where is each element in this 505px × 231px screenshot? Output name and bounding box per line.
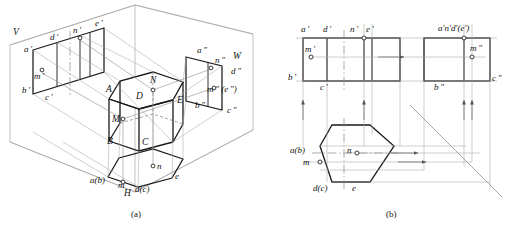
label-n-prime: n ′ — [73, 26, 81, 35]
b-label-n-prime: n ′ — [350, 25, 358, 34]
b-point-m-prime-marker — [309, 55, 313, 59]
b-label-dc-top: d(c) — [313, 184, 328, 193]
label-vertex-N: N — [150, 76, 156, 86]
b-label-b-dprime: b ″ — [434, 83, 444, 92]
descriptive-geometry-figure: V W H a ′ d ′ n ′ e ′ m ′ b ′ c ′ a ″ n … — [0, 0, 505, 231]
label-m-top: m — [118, 181, 125, 190]
caption-b: (b) — [386, 209, 397, 219]
label-vertex-M: M — [112, 115, 120, 125]
point-M-solid-marker — [121, 117, 125, 121]
label-d-dprime: d ″ — [231, 67, 241, 76]
b-point-m-dprime-marker — [470, 55, 474, 59]
b-label-m-top: m — [303, 158, 310, 167]
plane-label-w: W — [233, 52, 241, 62]
point-n-dprime-marker — [209, 66, 213, 70]
b-label-ab-top: a(b) — [290, 146, 305, 155]
label-a-dprime: a ″ — [197, 46, 207, 55]
b-label-a-prime: a ′ — [301, 25, 309, 34]
b-point-n-dprime-marker — [462, 36, 466, 40]
b-label-b-prime: b ′ — [288, 73, 296, 82]
b-label-e-prime: e ′ — [366, 25, 374, 34]
b-label-c-prime: c ′ — [320, 83, 328, 92]
plane-label-v: V — [13, 28, 19, 38]
label-m-prime: m ′ — [34, 72, 44, 81]
caption-a: (a) — [131, 209, 141, 219]
panel-a-projector-lines — [33, 28, 222, 187]
point-n-prime-marker — [78, 36, 82, 40]
b-label-n-top: n — [347, 146, 352, 155]
panel-a-front-projection — [33, 28, 104, 94]
label-vertex-B: B — [107, 137, 113, 147]
label-c-prime: c ′ — [45, 93, 53, 102]
b-label-c-dprime: c ″ — [492, 74, 502, 83]
b-label-d-prime: d ′ — [323, 25, 331, 34]
panel-b-front-view — [303, 38, 400, 81]
label-vertex-A: A — [106, 85, 112, 95]
label-a-prime: a ′ — [24, 45, 32, 54]
label-b-prime: b ′ — [22, 86, 30, 95]
b-label-e-top: e — [352, 184, 356, 193]
label-n-top: n — [157, 162, 162, 171]
plane-label-h: H — [124, 189, 131, 199]
label-e-top: e — [175, 172, 179, 181]
label-vertex-D: D — [136, 92, 143, 102]
point-N-solid-marker — [151, 88, 155, 92]
label-c-dprime: c ″ — [227, 106, 237, 115]
label-d-prime: d ′ — [50, 33, 58, 42]
panel-b-front-view-divisions — [327, 38, 372, 81]
b-label-andeprime: a′n′d′(e′) — [438, 24, 469, 33]
point-n-top-marker — [151, 164, 155, 168]
label-dc-top: d(c) — [135, 185, 150, 194]
panel-b-centrelines — [312, 30, 402, 190]
label-vertex-C: C — [142, 138, 148, 148]
b-point-m-top-marker — [318, 160, 322, 164]
label-e-prime: e ′ — [95, 19, 103, 28]
b-point-n-top-marker — [355, 151, 359, 155]
b-point-n-prime-marker — [362, 36, 366, 40]
panel-b-point-markers — [309, 36, 474, 164]
label-ab-top: a(b) — [90, 176, 105, 185]
b-label-m-dprime: m ″ — [470, 44, 482, 53]
label-b-dprime: b ″ — [195, 101, 205, 110]
b-label-m-prime: m ′ — [305, 45, 315, 54]
label-n-dprime: n ″ — [215, 56, 225, 65]
label-vertex-E: E — [177, 96, 183, 106]
label-m-e-dprime: m ″ (e ″) — [207, 85, 237, 94]
